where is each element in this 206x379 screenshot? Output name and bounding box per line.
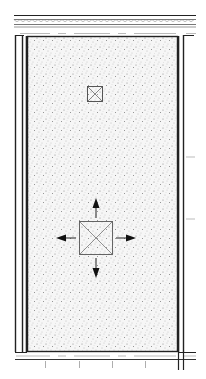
floor-slab <box>28 37 178 352</box>
floor-plan-drawing <box>0 0 206 379</box>
top-wall-with-insulation <box>14 16 196 34</box>
right-wall <box>179 35 196 352</box>
bottom-wall-with-insulation <box>15 352 196 370</box>
left-wall <box>15 35 27 352</box>
